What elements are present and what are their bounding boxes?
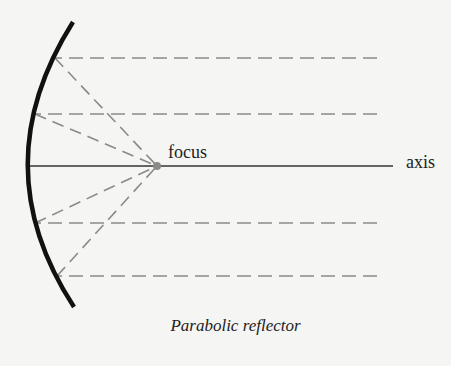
reflected-ray-3	[35, 166, 157, 223]
reflected-ray-4	[57, 166, 157, 276]
figure-caption: Parabolic reflector	[0, 316, 451, 336]
parabolic-reflector-diagram	[0, 0, 451, 366]
reflected-ray-1	[55, 58, 157, 166]
reflected-rays	[35, 58, 157, 276]
focus-point	[153, 162, 161, 170]
reflector-curve	[28, 22, 74, 307]
focus-label: focus	[168, 142, 207, 163]
axis-label: axis	[406, 152, 435, 173]
reflected-ray-2	[35, 114, 157, 166]
